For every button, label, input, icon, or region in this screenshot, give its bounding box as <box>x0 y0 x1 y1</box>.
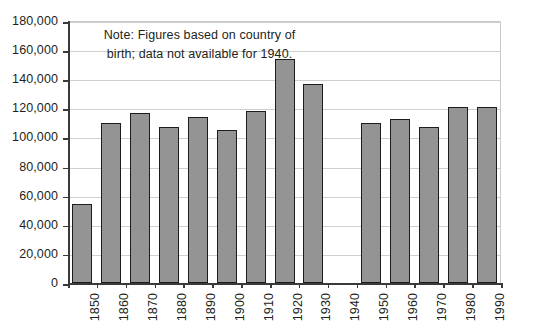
x-axis-tick-label: 1970 <box>435 293 449 321</box>
x-axis-tick <box>241 283 243 288</box>
x-axis-tick-label: 1880 <box>175 293 189 321</box>
x-axis-tick <box>212 283 214 288</box>
x-axis-tick <box>270 283 272 288</box>
x-axis-tick-label: 1940 <box>348 293 362 321</box>
x-axis-tick-label: 1860 <box>117 293 131 321</box>
x-axis-tick-label: 1960 <box>406 293 420 321</box>
x-axis-tick-label: 1950 <box>377 293 391 321</box>
x-axis-tick <box>357 283 359 288</box>
x-axis-tick <box>97 283 99 288</box>
x-axis-tick-label: 1910 <box>262 293 276 321</box>
x-axis-tick-label: 1990 <box>493 293 507 321</box>
x-axis-tick <box>414 283 416 288</box>
bar-chart: 180,000160,000140,000120,000100,00080,00… <box>0 0 551 331</box>
x-axis-tick-label: 1980 <box>464 293 478 321</box>
x-axis-tick <box>472 283 474 288</box>
x-axis-tick-label: 1900 <box>233 293 247 321</box>
x-axis-tick <box>183 283 185 288</box>
x-axis-tick <box>155 283 157 288</box>
x-axis-tick-label: 1930 <box>319 293 333 321</box>
x-axis-tick-label: 1850 <box>88 293 102 321</box>
x-axis-tick <box>299 283 301 288</box>
x-axis-tick-label: 1890 <box>204 293 218 321</box>
x-axis-tick-label: 1870 <box>146 293 160 321</box>
x-axis-tick <box>386 283 388 288</box>
chart-note: Note: Figures based on country of birth;… <box>92 26 307 65</box>
x-axis-tick-label: 1920 <box>291 293 305 321</box>
x-axis-tick <box>328 283 330 288</box>
x-axis-tick <box>68 283 70 288</box>
x-axis-tick <box>126 283 128 288</box>
x-axis-tick <box>443 283 445 288</box>
x-axis-tick <box>501 283 503 288</box>
